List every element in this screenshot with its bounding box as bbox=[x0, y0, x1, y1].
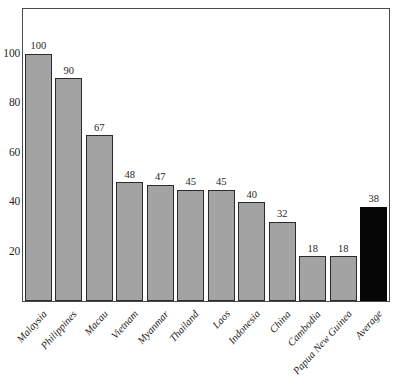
bar-slot: 32 bbox=[269, 9, 296, 301]
x-axis-tick-slot: Philippines bbox=[54, 304, 81, 387]
y-axis-tick-label: 60 bbox=[0, 147, 20, 159]
bar[interactable] bbox=[330, 256, 357, 301]
bar[interactable] bbox=[147, 185, 174, 301]
bar-slot: 100 bbox=[25, 9, 52, 301]
bar[interactable] bbox=[55, 78, 82, 301]
bar[interactable] bbox=[86, 135, 113, 301]
y-axis-tick-label: 40 bbox=[0, 196, 20, 208]
bar-value-label: 18 bbox=[308, 244, 319, 255]
bar-slot: 45 bbox=[177, 9, 204, 301]
bar[interactable] bbox=[238, 202, 265, 301]
bar[interactable] bbox=[25, 54, 52, 301]
bars-area: 1009067484745454032181838 bbox=[23, 9, 389, 301]
bar-value-label: 45 bbox=[216, 177, 227, 188]
y-axis-tick-label: 80 bbox=[0, 97, 20, 109]
bar-slot: 48 bbox=[116, 9, 143, 301]
bar-value-label: 32 bbox=[277, 209, 288, 220]
x-axis-tick-label: Thailand bbox=[167, 308, 201, 344]
bar-value-label: 100 bbox=[30, 41, 46, 52]
bar-value-label: 38 bbox=[369, 194, 380, 205]
bar-slot: 40 bbox=[238, 9, 265, 301]
x-axis-tick-slot: Average bbox=[359, 304, 386, 387]
x-axis-tick-slot: Myanmar bbox=[145, 304, 172, 387]
bar-value-label: 47 bbox=[155, 172, 166, 183]
bar[interactable] bbox=[208, 190, 235, 301]
bar-value-label: 45 bbox=[186, 177, 197, 188]
bar-slot: 90 bbox=[55, 9, 82, 301]
bar-slot: 47 bbox=[147, 9, 174, 301]
x-axis-labels: MalaysiaPhilippinesMacauVietnamMyanmarTh… bbox=[23, 304, 389, 387]
bar-slot: 67 bbox=[86, 9, 113, 301]
x-axis-tick-slot: Vietnam bbox=[115, 304, 142, 387]
bar-slot: 45 bbox=[208, 9, 235, 301]
bar[interactable] bbox=[299, 256, 326, 301]
bar-value-label: 90 bbox=[64, 66, 75, 77]
bar[interactable] bbox=[360, 207, 387, 301]
bar-slot: 38 bbox=[360, 9, 387, 301]
x-axis-tick-slot: Laos bbox=[206, 304, 233, 387]
y-axis-labels: 20406080100 bbox=[0, 8, 20, 302]
bar-value-label: 67 bbox=[94, 123, 105, 134]
y-axis-tick-label: 20 bbox=[0, 246, 20, 258]
x-axis-tick-label: Macau bbox=[82, 308, 110, 337]
x-axis-tick-slot: Indonesia bbox=[237, 304, 264, 387]
bar-chart: 20406080100 1009067484745454032181838 Ma… bbox=[0, 0, 406, 387]
x-axis-tick-slot: Thailand bbox=[176, 304, 203, 387]
bar-slot: 18 bbox=[299, 9, 326, 301]
bar-value-label: 48 bbox=[125, 170, 136, 181]
bar-value-label: 18 bbox=[338, 244, 349, 255]
bar-slot: 18 bbox=[330, 9, 357, 301]
bar[interactable] bbox=[116, 182, 143, 301]
x-axis-tick-label: Average bbox=[353, 308, 384, 341]
bar[interactable] bbox=[269, 222, 296, 301]
x-axis-tick-slot: Macau bbox=[84, 304, 111, 387]
y-axis-tick-label: 100 bbox=[0, 48, 20, 60]
x-axis-tick-slot: Papua New Guinea bbox=[328, 304, 355, 387]
bar-value-label: 40 bbox=[247, 190, 258, 201]
bar[interactable] bbox=[177, 190, 204, 301]
